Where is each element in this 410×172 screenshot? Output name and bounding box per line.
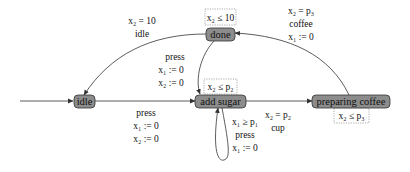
edge-done-to-idle — [84, 34, 206, 95]
node-preparing-coffee: preparing coffee — [312, 95, 390, 108]
edge-add-sugar-self-loop — [216, 108, 229, 160]
invariant-add-sugar: x₂ ≤ p₂ — [204, 79, 237, 94]
label-line: coffee — [289, 19, 313, 29]
label-add-sugar-self-loop: x₁ ≥ p₁ press x₁ := 0 — [232, 117, 258, 153]
invariant-add-sugar-text: x₂ ≤ p₂ — [207, 82, 233, 92]
node-done-label: done — [210, 29, 231, 40]
label-done-to-idle: x₂ = 10 idle — [128, 16, 156, 39]
invariant-done: x₂ ≤ 10 — [205, 9, 236, 25]
label-idle-to-add-sugar: press x₁ := 0 x₂ := 0 — [133, 108, 159, 144]
invariant-preparing-coffee-text: x₂ ≤ p₃ — [338, 111, 364, 121]
label-line: x₂ := 0 — [133, 134, 159, 144]
label-done-to-add-sugar: press x₁ := 0 x₂ := 0 — [158, 52, 185, 88]
label-line: x₂ = p₃ — [288, 6, 314, 16]
label-line: x₂ = 10 — [128, 16, 156, 26]
label-line: press — [165, 52, 185, 62]
automaton-diagram: x₂ ≤ 10 x₂ ≤ p₂ x₂ ≤ p₃ idle add sugar p… — [0, 0, 410, 172]
label-add-sugar-to-preparing: x₂ = p₂ cup — [265, 110, 291, 133]
node-idle: idle — [74, 95, 95, 108]
node-add-sugar: add sugar — [195, 95, 246, 108]
label-preparing-to-done: x₂ = p₃ coffee x₁ := 0 — [288, 6, 314, 42]
label-line: cup — [271, 123, 285, 133]
node-idle-label: idle — [77, 96, 93, 107]
edge-preparing-coffee-to-done — [235, 33, 349, 95]
invariant-preparing-coffee: x₂ ≤ p₃ — [334, 108, 369, 123]
label-line: x₁ ≥ p₁ — [232, 117, 258, 127]
label-line: x₁ := 0 — [232, 143, 258, 153]
label-line: x₂ = p₂ — [265, 110, 291, 120]
label-line: press — [136, 108, 156, 118]
label-line: idle — [135, 29, 149, 39]
label-line: x₁ := 0 — [158, 65, 184, 75]
label-line: x₁ := 0 — [133, 121, 159, 131]
label-line: press — [235, 130, 255, 140]
node-preparing-coffee-label: preparing coffee — [317, 96, 386, 107]
label-line: x₂ := 0 — [158, 78, 184, 88]
invariant-done-text: x₂ ≤ 10 — [207, 13, 235, 23]
label-line: x₁ := 0 — [288, 32, 314, 42]
node-add-sugar-label: add sugar — [200, 96, 241, 107]
node-done: done — [206, 28, 235, 41]
